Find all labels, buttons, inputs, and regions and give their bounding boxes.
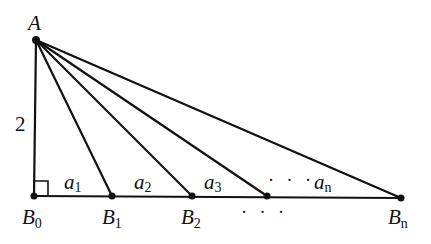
point-B1: [109, 193, 116, 200]
label-a1: a1: [64, 170, 82, 195]
point-B3: [264, 193, 271, 200]
point-B2: [189, 193, 196, 200]
label-Bn: Bn: [388, 205, 408, 231]
segment-A-B0: [34, 40, 36, 196]
point-B0: [31, 193, 38, 200]
label-B2: B2: [181, 205, 201, 231]
label-a3: a3: [204, 170, 222, 195]
baseline-B0-Bn: [34, 196, 401, 198]
label-an: an: [314, 170, 332, 195]
label-a2: a2: [134, 170, 152, 195]
point-Bn: [398, 195, 405, 202]
ellipsis-top: · · ·: [268, 170, 315, 190]
segment-A-Bn: [36, 40, 401, 198]
label-A: A: [26, 11, 41, 35]
label-B0: B0: [22, 205, 42, 231]
point-A: [32, 36, 40, 44]
geometry-figure: A B0 B1 B2 Bn 2 a1 a2 a3 an · · · · · ·: [0, 0, 431, 244]
label-side-length: 2: [15, 112, 26, 136]
segment-A-B2: [36, 40, 192, 196]
label-B1: B1: [102, 205, 122, 231]
ellipsis-bottom: · · ·: [241, 202, 288, 222]
